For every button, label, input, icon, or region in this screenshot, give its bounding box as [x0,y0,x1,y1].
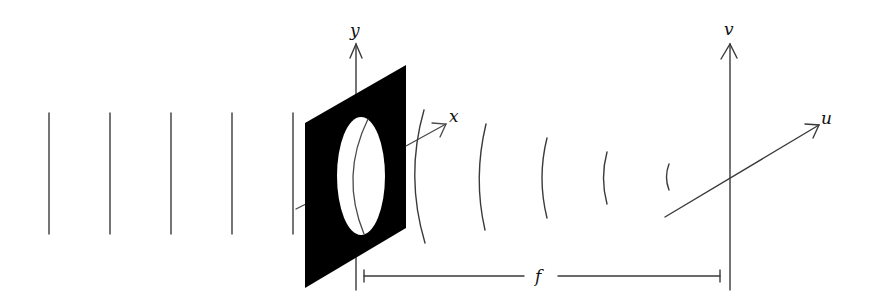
converging-wavefront-1 [415,110,425,243]
v-axis-arrowhead-icon [721,44,737,59]
aperture-screen [305,65,406,288]
u-axis [665,124,819,217]
focal-length-label: f [533,266,544,286]
converging-wavefront-3 [542,138,547,218]
x-axis [406,123,446,146]
incident-plane-wavefronts [49,113,293,234]
v-axis [721,44,737,290]
focal-distance-dimension [364,270,720,282]
converging-wavefront-5 [667,164,670,190]
x-axis-label: x [449,106,459,126]
u-axis-label: u [821,108,832,128]
fourier-optics-diagram: y x v u f [0,0,869,305]
v-axis-label: v [724,19,734,39]
converging-wavefront-4 [604,152,608,204]
converging-wavefront-2 [479,124,486,230]
converging-wavefronts [415,110,669,243]
y-axis-label: y [349,20,360,40]
x-axis-rear-segment [296,204,306,209]
